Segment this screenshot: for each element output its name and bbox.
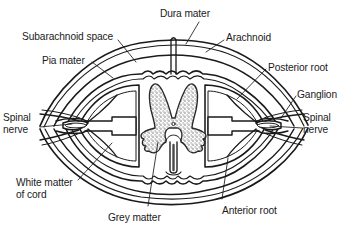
label-pia-mater: Pia mater: [42, 55, 85, 67]
label-anterior-root: Anterior root: [222, 205, 277, 217]
label-ganglion: Ganglion: [297, 89, 337, 101]
label-subarachnoid-space: Subarachnoid space: [22, 31, 113, 43]
leader-subarachnoid: [118, 40, 136, 62]
spinal-cord-diagram: Dura mater Subarachnoid space Arachnoid …: [0, 0, 347, 236]
label-spinal-nerve-left: Spinal nerve: [3, 112, 31, 135]
anterior-median-fissure: [166, 142, 181, 175]
label-grey-matter: Grey matter: [108, 212, 161, 224]
label-spinal-nerve-right: Spinal nerve: [303, 112, 331, 135]
leader-pia-mater: [92, 62, 113, 78]
central-canal-dot: [172, 122, 175, 125]
label-white-matter-of-cord: White matter of cord: [16, 177, 73, 200]
posterior-median-septum: [171, 38, 176, 74]
label-arachnoid: Arachnoid: [226, 32, 271, 44]
label-posterior-root: Posterior root: [268, 62, 328, 74]
label-dura-mater: Dura mater: [160, 8, 210, 20]
